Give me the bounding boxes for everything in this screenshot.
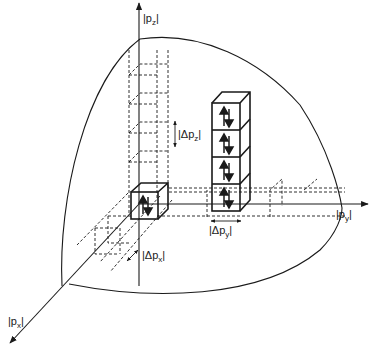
dpx-dimension-arrow <box>127 250 138 261</box>
dashed-z-column <box>129 50 168 215</box>
label-suffix: | <box>229 224 232 236</box>
label-suffix: | <box>156 12 159 24</box>
phase-space-diagram <box>0 0 373 349</box>
dpy-label: |Δpy| <box>209 224 232 239</box>
spin-pair-icon <box>220 188 233 208</box>
spin-pair-icon <box>220 107 233 127</box>
label-text: |p <box>8 315 17 327</box>
sphere-boundary-bottom <box>69 208 342 293</box>
dashed-y-row <box>157 179 345 217</box>
pz-axis-label: |pz| <box>143 12 159 27</box>
spin-pair-icon <box>220 161 233 181</box>
spin-pair-icon <box>220 134 233 154</box>
label-suffix: | <box>162 249 165 261</box>
label-suffix: | <box>21 315 24 327</box>
label-text: |p <box>143 12 152 24</box>
sphere-boundary-top <box>62 37 342 286</box>
px-axis-label: |px| <box>8 315 24 330</box>
label-text: |Δp <box>178 128 194 140</box>
label-text: |Δp <box>142 249 158 261</box>
px-axis <box>10 204 139 343</box>
label-text: |Δp <box>209 224 225 236</box>
dpz-label: |Δpz| <box>178 128 201 143</box>
label-text: |p <box>336 208 345 220</box>
py-axis-label: |py| <box>336 208 352 223</box>
label-suffix: | <box>349 208 352 220</box>
label-suffix: | <box>198 128 201 140</box>
dpx-label: |Δpx| <box>142 249 165 264</box>
